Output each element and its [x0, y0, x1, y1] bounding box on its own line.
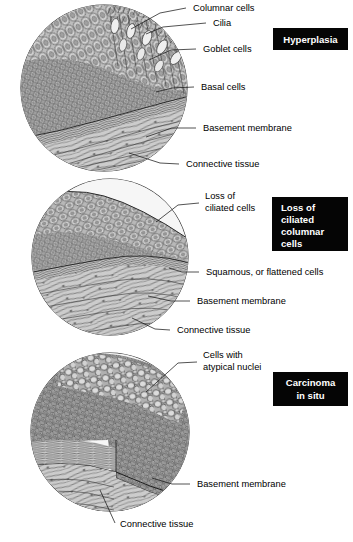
label-basement-membrane-1: Basement membrane — [203, 123, 292, 133]
badge-label-line1: Loss of — [281, 202, 316, 213]
label-connective-tissue-1: Connective tissue — [186, 159, 259, 169]
label-columnar-cells: Columnar cells — [193, 3, 255, 13]
badge-label-line3: columnar — [281, 226, 324, 237]
badge-label-hyperplasia: Hyperplasia — [283, 34, 338, 45]
label-goblet-cells: Goblet cells — [203, 44, 252, 54]
label-cells-with-atypical-nuclei-line2: atypical nuclei — [203, 362, 261, 372]
badge-label-line2: ciliated — [281, 214, 314, 225]
badge-label-line2: in situ — [296, 390, 324, 401]
label-basal-cells: Basal cells — [201, 82, 246, 92]
badge-label-line1: Carcinoma — [286, 377, 336, 388]
label-loss-of-ciliated-cells-line2: ciliated cells — [205, 203, 255, 213]
label-cells-with-atypical-nuclei-line1: Cells with — [203, 350, 243, 360]
label-cilia: Cilia — [213, 18, 232, 28]
label-basement-membrane-2: Basement membrane — [197, 296, 286, 306]
label-squamous-or-flattened-cells: Squamous, or flattened cells — [206, 267, 324, 277]
label-connective-tissue-2: Connective tissue — [177, 325, 250, 335]
label-basement-membrane-3: Basement membrane — [197, 479, 286, 489]
label-connective-tissue-3: Connective tissue — [120, 519, 193, 529]
histology-diagram: Columnar cells Cilia Goblet cells Basal … — [0, 0, 353, 542]
label-loss-of-ciliated-cells-line1: Loss of — [205, 191, 235, 201]
badge-label-line4: cells — [281, 238, 302, 249]
histology-figure: Columnar cells Cilia Goblet cells Basal … — [0, 0, 353, 542]
